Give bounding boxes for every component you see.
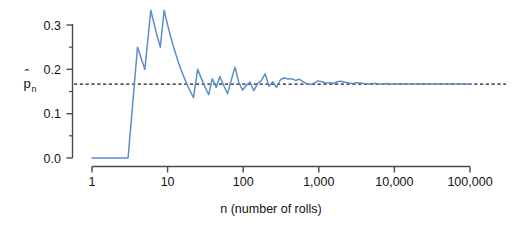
line-chart-svg: 0.0 0.1 0.2 0.3 p ˆ n 1 10 100 1,000 10,… bbox=[0, 0, 515, 231]
y-tick-label-3: 0.3 bbox=[44, 19, 61, 33]
x-tick-label-3: 1,000 bbox=[303, 175, 334, 189]
y-tick-label-2: 0.2 bbox=[44, 63, 61, 77]
x-tick-label-4: 10,000 bbox=[375, 175, 413, 189]
y-tick-label-0: 0.0 bbox=[44, 152, 61, 166]
x-tick-label-2: 100 bbox=[233, 175, 254, 189]
x-tick-label-1: 10 bbox=[161, 175, 175, 189]
chart-background bbox=[0, 0, 515, 231]
y-axis-title-hat: ˆ bbox=[25, 67, 30, 82]
y-tick-label-1: 0.1 bbox=[44, 107, 61, 121]
chart-figure: 0.0 0.1 0.2 0.3 p ˆ n 1 10 100 1,000 10,… bbox=[0, 0, 515, 231]
x-axis-title: n (number of rolls) bbox=[220, 202, 321, 216]
x-tick-label-5: 100,000 bbox=[447, 175, 492, 189]
x-tick-label-0: 1 bbox=[89, 175, 96, 189]
y-axis-title-subscript: n bbox=[31, 84, 36, 94]
